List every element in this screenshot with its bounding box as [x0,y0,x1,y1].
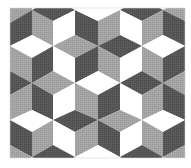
tumbling-blocks-pattern [0,0,191,168]
tiling-figure [0,0,191,168]
rhombus-tiles [0,0,191,168]
